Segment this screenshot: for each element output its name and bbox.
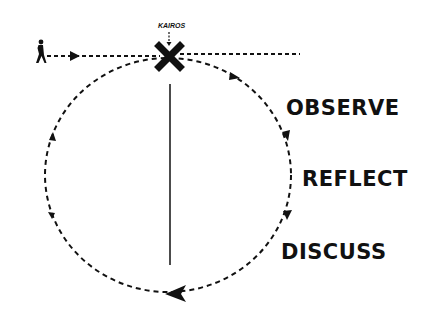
entry-arrow-icon — [70, 51, 80, 61]
x-marker-icon — [159, 46, 180, 67]
kairos-label: KAIROS — [158, 22, 185, 29]
kairos-cycle-diagram — [0, 0, 422, 315]
walking-person-icon — [36, 40, 47, 63]
stage-label-reflect: REFLECT — [302, 167, 408, 191]
cycle-path — [45, 58, 291, 292]
stage-label-observe: OBSERVE — [286, 96, 400, 120]
stage-label-discuss: DISCUSS — [281, 240, 387, 264]
